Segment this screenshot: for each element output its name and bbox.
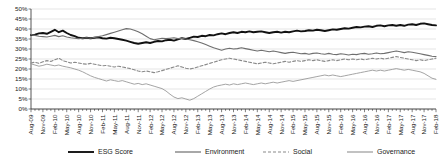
x-axis-tick-label: Aug-12 (170, 114, 177, 135)
y-axis-tick-label: 5% (19, 95, 28, 102)
y-axis-tick-label: 0% (19, 105, 28, 112)
x-axis-tick-label: Nov-09 (39, 114, 46, 135)
x-axis-tick-label: May-10 (63, 114, 70, 135)
y-axis-tick-label: 15% (15, 75, 28, 82)
x-axis-tick-label: Aug-13 (218, 114, 225, 135)
x-axis-tick-label: May-13 (206, 114, 213, 135)
x-axis-tick-label: Nov-14 (278, 114, 285, 135)
legend-label-social: Social (293, 148, 313, 155)
x-axis-tick-label: Nov-11 (135, 114, 142, 134)
y-axis-tick-label: 35% (15, 35, 28, 42)
x-axis-tick-label: Feb-12 (147, 114, 154, 134)
x-axis-tick-label: Feb-11 (99, 114, 106, 134)
series-line-esg-score (31, 23, 436, 43)
x-axis-tick-label: Feb-18 (432, 114, 439, 134)
x-axis-tick-label: Aug-17 (409, 114, 416, 135)
x-axis-tick-label: Aug-15 (313, 114, 320, 135)
x-axis-tick-label: Feb-10 (51, 114, 58, 134)
esg-line-chart: 0%5%10%15%20%25%30%35%40%45%50% Aug-09No… (0, 0, 439, 163)
x-axis-tick-label: May-17 (397, 114, 404, 135)
x-axis-tick-label: May-11 (111, 114, 118, 135)
x-axis-tick-label: Feb-14 (242, 114, 249, 134)
chart-canvas: 0%5%10%15%20%25%30%35%40%45%50% Aug-09No… (0, 0, 439, 163)
x-axis-tick-label: Aug-10 (75, 114, 82, 135)
y-axis-labels-group: 0%5%10%15%20%25%30%35%40%45%50% (15, 5, 28, 112)
x-axis-ticks-group (31, 109, 436, 112)
x-axis-tick-label: Nov-16 (373, 114, 380, 135)
x-axis-tick-label: Feb-17 (385, 114, 392, 134)
y-axis-tick-label: 45% (15, 15, 28, 22)
legend-label-governance: Governance (377, 148, 415, 155)
x-axis-tick-label: Aug-16 (361, 114, 368, 135)
x-axis-tick-label: Aug-14 (266, 114, 273, 135)
series-group (31, 23, 436, 100)
x-axis-tick-label: Nov-10 (87, 114, 94, 135)
x-axis-tick-label: Nov-17 (420, 114, 427, 135)
x-axis-tick-label: Feb-13 (194, 114, 201, 134)
x-axis-tick-label: May-14 (254, 114, 261, 135)
x-axis-labels-group: Aug-09Nov-09Feb-10May-10Aug-10Nov-10Feb-… (27, 114, 439, 135)
y-axis-tick-label: 10% (15, 85, 28, 92)
x-axis-tick-label: Feb-15 (289, 114, 296, 134)
x-axis-tick-label: May-12 (158, 114, 165, 135)
x-axis-tick-label: May-15 (301, 114, 308, 135)
legend-label-esg-score: ESG Score (98, 148, 133, 155)
x-axis-tick-label: May-16 (349, 114, 356, 135)
series-line-governance (31, 64, 436, 100)
x-axis-tick-label: Nov-15 (325, 114, 332, 135)
x-axis-tick-label: Aug-11 (123, 114, 130, 134)
y-axis-tick-label: 20% (15, 65, 28, 72)
y-axis-tick-label: 50% (15, 5, 28, 12)
x-axis-tick-label: Aug-09 (27, 114, 34, 135)
legend-label-environment: Environment (205, 148, 244, 155)
x-axis-tick-label: Feb-16 (337, 114, 344, 134)
x-axis-tick-label: Nov-13 (230, 114, 237, 135)
y-axis-tick-label: 30% (15, 45, 28, 52)
x-axis-tick-label: Nov-12 (182, 114, 189, 135)
legend-group: ESG ScoreEnvironmentSocialGovernance (68, 148, 415, 155)
y-axis-tick-label: 40% (15, 25, 28, 32)
y-axis-tick-label: 25% (15, 55, 28, 62)
